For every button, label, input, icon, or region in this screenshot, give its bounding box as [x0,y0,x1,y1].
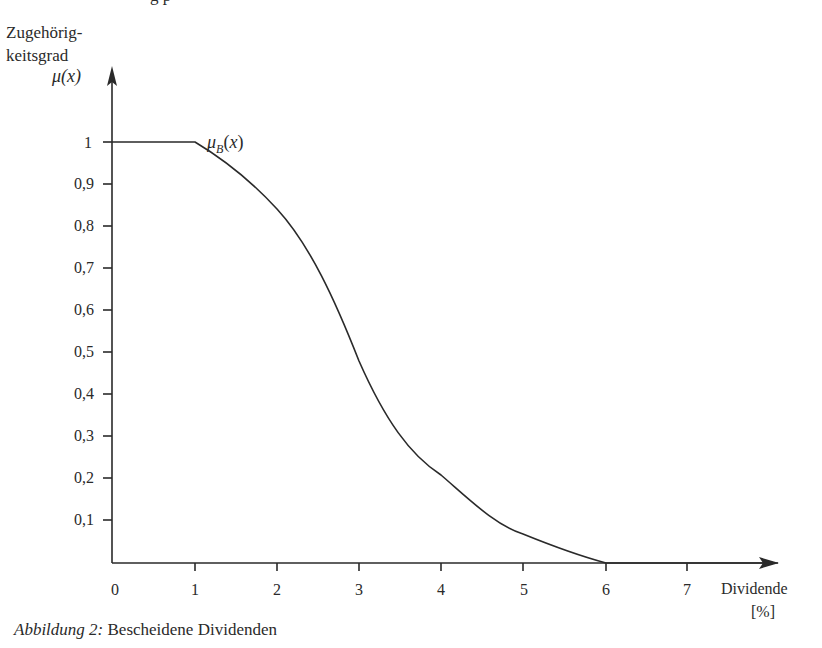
y-ticks [103,142,112,520]
chart-plot [0,0,822,648]
x-ticks [195,563,687,571]
membership-curve [112,142,778,563]
